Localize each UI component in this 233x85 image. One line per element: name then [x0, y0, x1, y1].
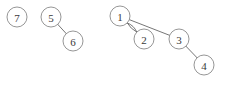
node-label-6: 6 [70, 36, 76, 48]
node-label-4: 4 [201, 60, 207, 72]
node-label-2: 2 [141, 34, 147, 46]
edge-1-2 [127, 23, 137, 32]
graph-svg: 7561234 [0, 0, 233, 85]
nodes-layer: 7561234 [7, 6, 214, 75]
edge-1-2 [127, 23, 137, 32]
node-5[interactable]: 5 [41, 7, 61, 27]
edge-3-4 [186, 46, 197, 58]
edge-5-6 [58, 24, 66, 33]
node-label-3: 3 [176, 34, 182, 46]
node-6[interactable]: 6 [63, 31, 83, 51]
node-7[interactable]: 7 [7, 7, 27, 27]
node-1[interactable]: 1 [110, 6, 130, 26]
node-label-5: 5 [48, 12, 54, 24]
node-4[interactable]: 4 [194, 55, 214, 75]
node-label-1: 1 [117, 11, 123, 23]
node-label-7: 7 [14, 12, 20, 24]
node-2[interactable]: 2 [134, 29, 154, 49]
node-3[interactable]: 3 [169, 29, 189, 49]
graph-canvas: 7561234 [0, 0, 233, 85]
